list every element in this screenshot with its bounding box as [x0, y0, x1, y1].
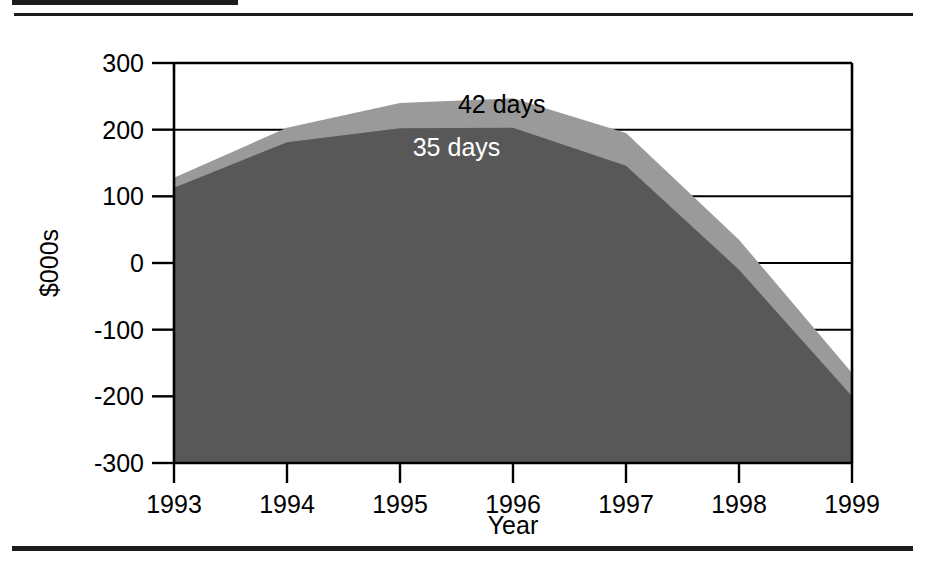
x-tick-label: 1997: [598, 490, 654, 518]
x-tick-label: 1998: [711, 490, 767, 518]
top-horizontal-rule: [14, 13, 913, 16]
y-tick-label: -200: [94, 382, 144, 410]
bottom-horizontal-rule: [12, 546, 913, 551]
y-tick-label: -300: [94, 449, 144, 477]
series-annotation-2: 35 days: [413, 133, 501, 161]
area-chart: 3002001000-100-200-300 19931994199519961…: [0, 22, 927, 542]
y-tick-label: 300: [102, 49, 144, 77]
y-tick-label: 100: [102, 182, 144, 210]
series-annotation-1: 42 days: [458, 90, 546, 118]
x-tick-label: 1993: [146, 490, 202, 518]
x-tick-label: 1994: [259, 490, 315, 518]
x-axis-title: Year: [488, 511, 539, 539]
y-axis-ticks: 3002001000-100-200-300: [94, 49, 174, 477]
x-axis-ticks: 1993199419951996199719981999: [146, 463, 880, 518]
top-black-bar: [12, 0, 238, 5]
x-tick-label: 1999: [824, 490, 880, 518]
y-tick-label: -100: [94, 316, 144, 344]
chart-figure: 3002001000-100-200-300 19931994199519961…: [0, 22, 927, 542]
y-axis-title: $000s: [35, 229, 63, 297]
y-tick-label: 0: [130, 249, 144, 277]
x-tick-label: 1995: [372, 490, 428, 518]
y-tick-label: 200: [102, 116, 144, 144]
